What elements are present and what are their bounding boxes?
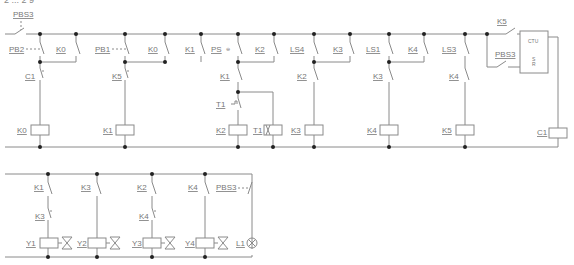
label-k2-a: K2 <box>255 45 265 54</box>
pressure-symbol: ⊖ <box>226 46 230 52</box>
label-k4-a: K4 <box>408 45 418 54</box>
valve-icon-y1 <box>62 237 72 249</box>
label-ls4: LS4 <box>290 45 305 54</box>
coil-k5 <box>456 125 474 135</box>
label-k0-coil: K0 <box>17 126 27 135</box>
valve-icon-y3 <box>165 237 175 249</box>
label-k0-b: K0 <box>148 45 158 54</box>
label-ls3: LS3 <box>442 45 457 54</box>
label-out-k3-series: K3 <box>35 212 45 221</box>
valve-icon-y4 <box>218 237 228 249</box>
output-ladder: K1 K3 Y1 K3 Y2 K2 <box>5 172 257 259</box>
valve-icon-y2 <box>110 237 120 249</box>
label-t1-contact: T1 <box>216 100 226 109</box>
coil-y1 <box>40 238 58 248</box>
label-y1: Y1 <box>26 239 36 248</box>
label-k4-b: K4 <box>449 72 459 81</box>
rung-k1: PB1 K0 K5 K1 <box>95 34 169 147</box>
label-k2-b: K2 <box>297 72 307 81</box>
label-k3-a: K3 <box>333 45 343 54</box>
rung-y1: K1 K3 Y1 <box>26 174 72 257</box>
coil-k4 <box>380 125 398 135</box>
label-out-k4-series: K4 <box>139 212 149 221</box>
rung-k1-contact: K1 <box>185 34 205 62</box>
label-y4: Y4 <box>185 239 195 248</box>
rung-y3: K2 K4 Y3 <box>132 174 175 257</box>
label-k1-b: K1 <box>220 72 230 81</box>
coil-y4 <box>196 238 214 248</box>
rung-k2-t1: PS ⊖ K2 K1 T1 K2 T1 <box>211 34 282 147</box>
label-out-k2: K2 <box>137 183 147 192</box>
label-out-k4: K4 <box>188 183 198 192</box>
label-k4-coil: K4 <box>367 126 377 135</box>
label-pb2: PB2 <box>9 45 25 54</box>
label-ls1: LS1 <box>366 45 381 54</box>
coil-y3 <box>143 238 161 248</box>
label-k5-coil: K5 <box>442 126 452 135</box>
label-out-k3: K3 <box>81 183 91 192</box>
label-y2: Y2 <box>77 239 87 248</box>
label-t1-coil: T1 <box>253 126 263 135</box>
ladder-diagram: PBS3 PB2 K0 C1 K0 <box>0 0 574 265</box>
label-c1-coil: C1 <box>537 128 548 137</box>
label-k2-coil: K2 <box>216 126 226 135</box>
label-k1-a: K1 <box>185 45 195 54</box>
coil-k0 <box>31 125 49 135</box>
rung-y2: K3 Y2 <box>77 174 120 257</box>
label-k1-coil: K1 <box>103 126 113 135</box>
rung-l1: PBS3 L1 <box>216 182 257 248</box>
rung-k4: LS1 K4 K3 K4 <box>366 34 428 147</box>
ctu-title: CTU <box>528 38 539 44</box>
coil-y2 <box>88 238 106 248</box>
label-k0-holding: K0 <box>56 45 66 54</box>
label-l1: L1 <box>236 239 245 248</box>
label-y3: Y3 <box>132 239 142 248</box>
rung-k5: LS3 K4 K5 <box>442 34 474 147</box>
coil-k2 <box>229 125 247 135</box>
label-c1-contact: C1 <box>25 72 36 81</box>
coil-k3 <box>305 125 323 135</box>
rung-k0: PB2 K0 C1 K0 <box>9 34 80 147</box>
main-ladder: PBS3 PB2 K0 C1 K0 <box>5 10 567 149</box>
label-ps: PS <box>211 45 222 54</box>
label-pb1: PB1 <box>95 45 111 54</box>
junctions-output <box>46 172 207 259</box>
label-k3-b: K3 <box>373 72 383 81</box>
label-pbs3-reset: PBS3 <box>495 50 516 59</box>
label-k3-coil: K3 <box>291 126 301 135</box>
label-pbs3-master: PBS3 <box>13 10 34 19</box>
ctu-r: R <box>532 61 536 67</box>
counter-block: K5 PBS3 CTU S R C1 <box>487 17 567 147</box>
label-k5-contact: K5 <box>112 72 122 81</box>
rung-k3: LS4 K3 K2 K3 <box>290 34 354 147</box>
coil-k1 <box>116 125 134 135</box>
label-out-k1: K1 <box>34 183 44 192</box>
coil-c1 <box>549 128 567 138</box>
label-k5-ctu: K5 <box>497 17 507 26</box>
label-out-pbs3: PBS3 <box>216 183 237 192</box>
